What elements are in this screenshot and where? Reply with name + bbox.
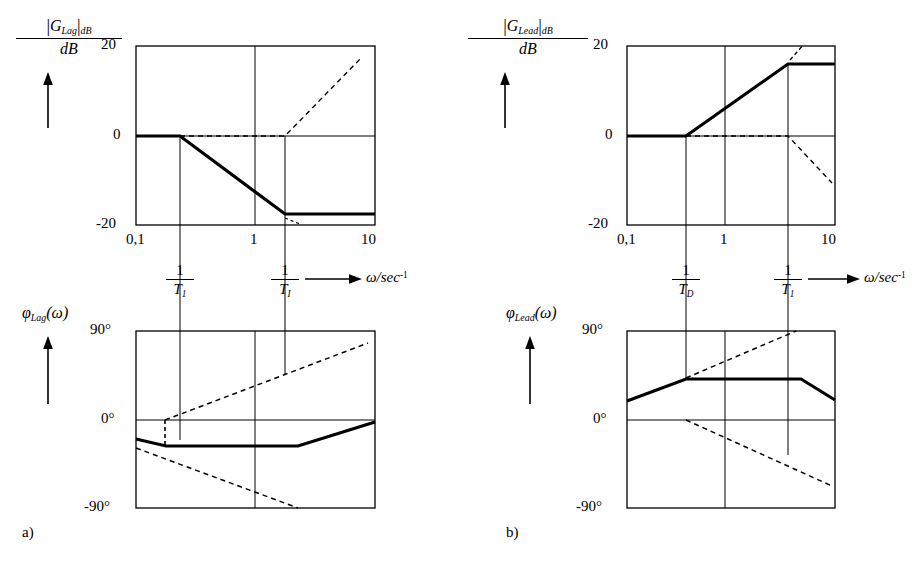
lead-phase-axis-arrow-icon (525, 336, 535, 404)
bode-plot-figure: |GLag|dB dB (0, 0, 920, 572)
lead-omega-axis-arrow-icon (460, 0, 920, 300)
subfigure-label-a: a) (22, 524, 34, 541)
lag-phase-ytick-90: 90° (90, 321, 111, 338)
panel-lag-magnitude: |GLag|dB dB (0, 0, 460, 300)
lag-omega-axis-title: ω/sec-1 (366, 269, 408, 286)
lag-phase-ytick-0: 0° (101, 410, 115, 427)
lag-phase-plot (0, 300, 460, 572)
lag-phase-ytick-minus90: -90° (84, 498, 110, 515)
panel-lag-phase: φLag(ω) 90° 0° (0, 300, 460, 572)
lead-phase-ytick-0: 0° (593, 410, 607, 427)
lead-phase-ytick-minus90: -90° (576, 498, 602, 515)
lag-phase-axis-arrow-icon (43, 336, 53, 404)
lead-omega-axis-title: ω/sec-1 (864, 269, 906, 286)
lag-phase-dashed-falling-asymptote (136, 448, 298, 508)
lead-phase-plot (460, 300, 920, 572)
lead-phase-dashed-rising-asymptote (686, 331, 796, 378)
subfigure-label-b: b) (506, 524, 519, 541)
lead-phase-ytick-90: 90° (582, 321, 603, 338)
panel-lead-magnitude: |GLead|dB dB 20 0 -20 (460, 0, 920, 300)
panel-lead-phase: φLead(ω) 90° 0° -90° b) (460, 300, 920, 572)
lead-phase-resultant-curve (627, 379, 835, 401)
lag-phase-dashed-rising-asymptote (165, 343, 368, 420)
lead-phase-dashed-falling-asymptote (686, 420, 832, 486)
lag-omega-axis-arrow-icon (0, 0, 460, 300)
